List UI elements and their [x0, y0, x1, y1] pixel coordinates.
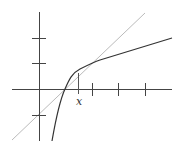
x-marker-label: x [76, 95, 83, 108]
axes [12, 12, 172, 141]
diagram-canvas: x [0, 0, 184, 157]
